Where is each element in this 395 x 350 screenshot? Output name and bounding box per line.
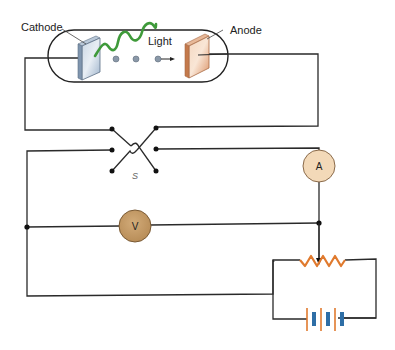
reversing-switch[interactable] xyxy=(110,126,159,174)
light-label: Light xyxy=(148,35,172,47)
photoelectric-circuit-diagram: Cathode Anode Light S A V xyxy=(0,0,395,350)
switch-label: S xyxy=(132,171,138,181)
battery xyxy=(307,308,376,331)
ammeter: A xyxy=(303,150,335,182)
voltmeter: V xyxy=(119,210,151,242)
cathode-label: Cathode xyxy=(21,21,63,33)
ammeter-label: A xyxy=(316,161,323,172)
rheostat-resistor xyxy=(300,256,345,266)
voltmeter-label: V xyxy=(132,221,139,232)
anode-label: Anode xyxy=(230,24,262,36)
cathode-plate xyxy=(78,36,100,80)
circuit-wires xyxy=(25,54,376,319)
